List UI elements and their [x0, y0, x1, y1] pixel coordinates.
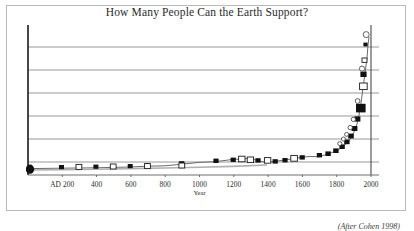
- population-line-chart: [26, 25, 379, 177]
- origin-filled-circle-marker: [26, 165, 34, 174]
- x-axis-title: Year: [193, 189, 205, 196]
- chart-title: How Many People Can the Earth Support?: [0, 6, 414, 18]
- x-tick-label-1: 400: [91, 180, 102, 189]
- x-tick-label-3: 800: [159, 180, 170, 189]
- marker-group-open-square: [76, 58, 367, 169]
- x-tick-label-8: 1800: [329, 180, 344, 189]
- x-tick-label-9: 2000: [363, 180, 378, 189]
- x-tick-label-0: AD 200: [50, 180, 74, 189]
- gridlines: [28, 47, 379, 162]
- x-tick-label-6: 1400: [261, 180, 276, 189]
- marker-group-filled-square: [59, 43, 368, 170]
- x-tick-label-5: 1200: [226, 180, 241, 189]
- x-tick-label-2: 600: [125, 180, 136, 189]
- population-curve: [29, 37, 369, 169]
- x-tick-label-4: 1000: [192, 180, 207, 189]
- plot-area: [26, 25, 379, 177]
- x-tick-label-7: 1600: [295, 180, 310, 189]
